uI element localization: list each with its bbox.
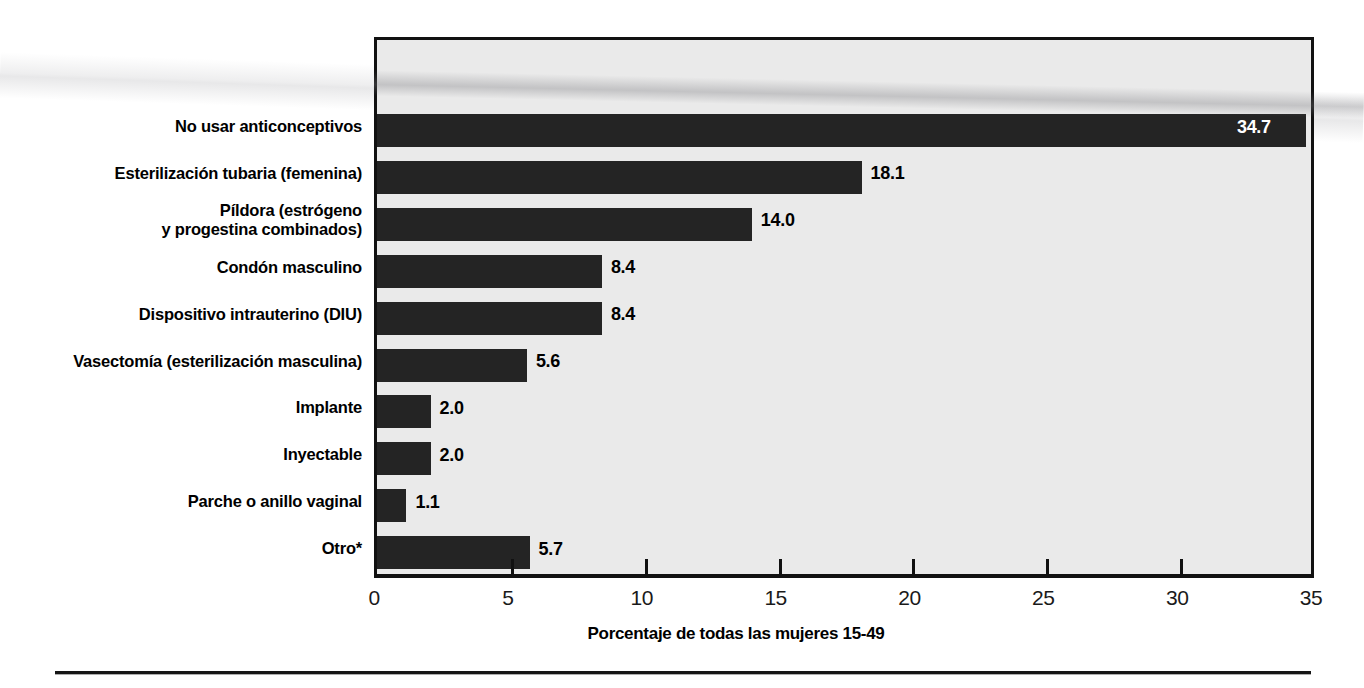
x-axis-tick-5 [1046,559,1049,574]
chart-plot-area [374,37,1314,578]
bars-layer [377,40,1311,574]
value-label-9: 5.7 [539,539,563,560]
x-axis-tick-label-1: 5 [478,586,538,610]
category-label-9-line-0: Otro* [0,539,362,558]
value-label-1: 18.1 [871,163,905,184]
x-axis-title-text: Porcentaje de todas las mujeres 15-49 [588,624,885,644]
bar-9 [377,536,530,569]
value-label-3: 8.4 [611,257,635,278]
category-label-3: Condón masculino [0,258,362,277]
footer-divider-rule-shadow [55,674,1311,675]
value-label-8: 1.1 [415,492,439,513]
x-axis-tick-label-5: 25 [1013,586,1073,610]
category-label-8-line-0: Parche o anillo vaginal [0,492,362,511]
x-axis-title: Porcentaje de todas las mujeres 15-49 [0,624,1364,644]
value-label-6: 2.0 [440,398,464,419]
bar-8 [377,489,406,522]
category-label-9: Otro* [0,539,362,558]
bar-0 [377,114,1306,147]
category-label-6: Implante [0,398,362,417]
x-axis-tick-2 [645,559,648,574]
x-axis-tick-3 [779,559,782,574]
bar-6 [377,395,431,428]
x-axis-tick-label-2: 10 [612,586,672,610]
bar-3 [377,255,602,288]
x-axis-tick-label-7: 35 [1281,586,1341,610]
category-label-4-line-0: Dispositivo intrauterino (DIU) [0,305,362,324]
bar-5 [377,349,527,382]
category-label-7-line-0: Inyectable [0,445,362,464]
x-axis-tick-label-6: 30 [1147,586,1207,610]
category-label-4: Dispositivo intrauterino (DIU) [0,305,362,324]
value-label-0: 34.7 [1237,117,1271,138]
value-label-5: 5.6 [536,351,560,372]
category-label-0: No usar anticonceptivos [0,117,362,136]
category-label-2: Píldora (estrógenoy progestina combinado… [0,201,362,239]
bar-4 [377,302,602,335]
x-axis-tick-label-3: 15 [746,586,806,610]
category-label-5-line-0: Vasectomía (esterilización masculina) [0,352,362,371]
x-axis-tick-1 [511,559,514,574]
value-label-4: 8.4 [611,304,635,325]
category-label-2-line-0: Píldora (estrógeno [0,201,362,220]
category-label-7: Inyectable [0,445,362,464]
category-label-8: Parche o anillo vaginal [0,492,362,511]
bar-7 [377,442,431,475]
x-axis-tick-4 [912,559,915,574]
category-label-0-line-0: No usar anticonceptivos [0,117,362,136]
value-label-2: 14.0 [761,210,795,231]
bar-2 [377,208,752,241]
category-label-1-line-0: Esterilización tubaria (femenina) [0,164,362,183]
x-axis-tick-6 [1180,559,1183,574]
category-label-2-line-1: y progestina combinados) [0,220,362,239]
category-label-1: Esterilización tubaria (femenina) [0,164,362,183]
category-label-5: Vasectomía (esterilización masculina) [0,352,362,371]
category-label-6-line-0: Implante [0,398,362,417]
bar-1 [377,161,862,194]
category-label-3-line-0: Condón masculino [0,258,362,277]
value-label-7: 2.0 [440,445,464,466]
x-axis-tick-label-4: 20 [879,586,939,610]
x-axis-tick-label-0: 0 [344,586,404,610]
